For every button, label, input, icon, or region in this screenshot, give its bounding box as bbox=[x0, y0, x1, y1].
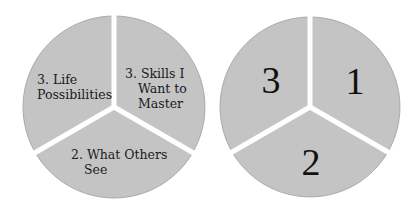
label-line: See bbox=[84, 162, 107, 177]
label-line: Want to bbox=[138, 81, 187, 96]
right-pie-numeral-1: 1 bbox=[346, 60, 365, 102]
right-pie-chart: 1 2 3 bbox=[220, 12, 400, 197]
label-line: 3. Skills I bbox=[125, 66, 184, 81]
right-pie-numeral-3: 3 bbox=[262, 59, 281, 101]
label-line: Possibilities bbox=[37, 87, 112, 102]
label-line: 2. What Others bbox=[71, 147, 167, 162]
label-line: Master bbox=[138, 96, 183, 111]
left-pie-chart: 3. Skills I Want to Master 2. What Other… bbox=[23, 12, 205, 198]
diagram-canvas: 3. Skills I Want to Master 2. What Other… bbox=[0, 0, 420, 210]
right-pie-numeral-2: 2 bbox=[302, 141, 321, 183]
label-line: 3. Life bbox=[37, 72, 77, 87]
